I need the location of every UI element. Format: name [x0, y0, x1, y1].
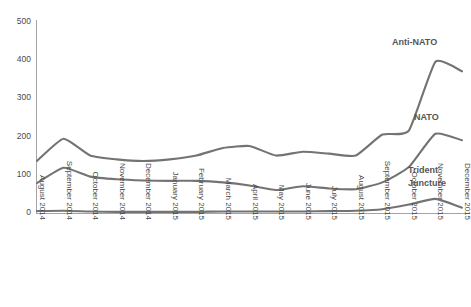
- x-axis-tick-label: January 2015: [171, 172, 180, 221]
- y-axis-group: 0100200300400500: [17, 16, 37, 217]
- x-axis-tick-label: April 2015: [251, 184, 260, 221]
- y-axis-tick-label: 400: [17, 54, 31, 64]
- x-axis-tick-label: September 2014: [65, 161, 74, 221]
- x-axis-tick-label: March 2015: [224, 178, 233, 221]
- y-axis-tick-label: 100: [17, 169, 31, 179]
- x-axis-tick-label: June 2015: [304, 183, 313, 221]
- y-axis-tick-label: 200: [17, 131, 31, 141]
- x-axis-tick-label: May 2015: [277, 185, 286, 221]
- x-axis-tick-label: August 2014: [38, 175, 47, 220]
- series-annotation-label: Anti-NATO: [392, 37, 437, 47]
- x-axis-tick-label: October 2014: [91, 172, 100, 221]
- y-axis-tick-label: 0: [26, 207, 31, 217]
- x-axis-tick-label: November 2014: [118, 163, 127, 220]
- x-axis-tick-label: February 2015: [197, 168, 206, 221]
- series-annotation-labels: Anti-NATONATOTridentJuncture: [392, 37, 446, 188]
- x-axis-tick-label: July 2015: [330, 186, 339, 221]
- line-chart: 0100200300400500 August 2014September 20…: [0, 0, 471, 307]
- x-axis-tick-label: December 2015: [463, 163, 471, 220]
- series-annotation-label: Trident: [408, 165, 438, 175]
- y-axis-tick-labels: 0100200300400500: [17, 16, 31, 217]
- chart-container: 0100200300400500 August 2014September 20…: [0, 0, 471, 307]
- x-axis-tick-label: September 2015: [383, 161, 392, 221]
- x-axis-tick-label: August 2015: [357, 175, 366, 220]
- series-annotation-label: Juncture: [408, 178, 446, 188]
- y-axis-tick-label: 500: [17, 16, 31, 26]
- series-line-anti-nato: [37, 61, 462, 161]
- series-annotation-label: NATO: [414, 112, 439, 122]
- y-axis-tick-label: 300: [17, 92, 31, 102]
- x-axis-tick-label: December 2014: [144, 163, 153, 220]
